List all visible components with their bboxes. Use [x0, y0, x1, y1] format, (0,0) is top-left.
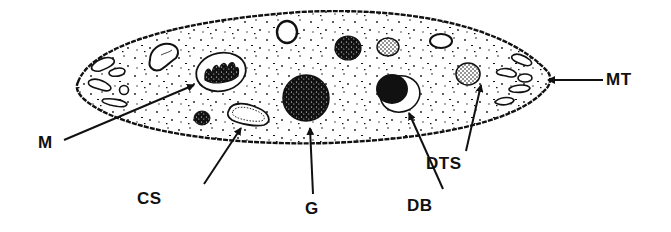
label-M: M [38, 134, 53, 151]
label-DTS: DTS [426, 155, 462, 172]
small-granule [194, 111, 210, 125]
platelet-illustration [0, 0, 671, 232]
dark-granule [335, 36, 361, 60]
alpha-granule [283, 75, 329, 121]
speckled-granule [377, 38, 399, 56]
label-G: G [305, 200, 319, 217]
label-DB: DB [407, 197, 433, 214]
open-vesicle-right [430, 34, 452, 48]
platelet-diagram: M CS G DB DTS MT [0, 0, 671, 232]
dense-tubular-system [456, 63, 480, 85]
open-vesicle [277, 21, 297, 43]
label-CS: CS [137, 190, 162, 207]
label-MT: MT [606, 71, 632, 88]
